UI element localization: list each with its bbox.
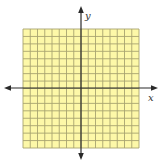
coordinate-plane: x y [0,0,163,164]
arrow-up-icon [78,6,84,13]
arrow-right-icon [151,85,158,91]
x-axis-label: x [148,92,154,103]
arrow-down-icon [78,153,84,160]
arrow-left-icon [4,85,11,91]
y-axis-label: y [84,10,91,21]
